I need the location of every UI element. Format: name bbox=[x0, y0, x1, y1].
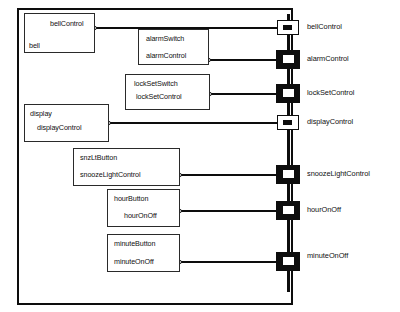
component-box-minute-button[interactable]: minuteButton minuteOnOff bbox=[107, 234, 180, 272]
component-class-label: bellControl bbox=[50, 19, 83, 28]
port-core-icon bbox=[283, 170, 294, 178]
component-box-bell[interactable]: bellControl bell bbox=[24, 13, 95, 53]
port-label-hour-on-off: hourOnOff bbox=[307, 205, 341, 214]
port-label-lockset-control: lockSetControl bbox=[307, 88, 354, 97]
component-class-label: hourButton bbox=[114, 194, 148, 203]
component-class-label: display bbox=[30, 109, 52, 118]
component-instance-label: alarmControl bbox=[146, 51, 186, 60]
port-alarm-control[interactable] bbox=[276, 50, 300, 69]
wire-hour-to-houronoff bbox=[181, 210, 290, 212]
component-class-label: snzLtButton bbox=[80, 153, 117, 162]
port-bell-control[interactable] bbox=[277, 20, 299, 35]
port-label-minute-on-off: minuteOnOff bbox=[307, 251, 348, 260]
component-instance-label: displayControl bbox=[37, 123, 81, 132]
port-core-icon bbox=[283, 206, 294, 214]
port-lockset-control[interactable] bbox=[276, 84, 300, 103]
component-instance-label: bell bbox=[29, 41, 40, 50]
component-box-display[interactable]: display displayControl bbox=[24, 104, 109, 142]
port-core-icon bbox=[283, 25, 292, 31]
diagram-canvas: bellControl bell alarmSwitch alarmContro… bbox=[0, 0, 400, 312]
port-display-control[interactable] bbox=[277, 115, 299, 130]
port-hour-on-off[interactable] bbox=[276, 201, 300, 220]
wire-snooze-to-snoozelightcontrol bbox=[181, 174, 290, 176]
port-minute-on-off[interactable] bbox=[276, 252, 300, 271]
component-class-label: alarmSwitch bbox=[146, 34, 184, 43]
component-box-snooze-light-button[interactable]: snzLtButton snoozeLightControl bbox=[73, 148, 180, 186]
component-instance-label: lockSetControl bbox=[136, 92, 182, 101]
component-box-lockset-switch[interactable]: lockSetSwitch lockSetControl bbox=[125, 74, 210, 110]
wire-minute-to-minuteonoff bbox=[181, 261, 290, 263]
component-class-label: lockSetSwitch bbox=[134, 79, 178, 88]
port-core-icon bbox=[283, 89, 294, 97]
component-instance-label: minuteOnOff bbox=[114, 257, 154, 266]
port-core-icon bbox=[283, 257, 294, 265]
port-label-alarm-control: alarmControl bbox=[307, 54, 349, 63]
port-label-display-control: displayControl bbox=[307, 117, 353, 126]
component-class-label: minuteButton bbox=[114, 239, 155, 248]
port-snooze-light-control[interactable] bbox=[276, 165, 300, 184]
component-box-alarm-switch[interactable]: alarmSwitch alarmControl bbox=[138, 29, 209, 65]
component-instance-label: hourOnOff bbox=[124, 211, 157, 220]
wire-display-to-displaycontrol bbox=[110, 122, 290, 124]
port-core-icon bbox=[283, 120, 292, 126]
port-core-icon bbox=[283, 55, 294, 63]
port-label-bell-control: bellControl bbox=[307, 22, 342, 31]
component-box-hour-button[interactable]: hourButton hourOnOff bbox=[107, 189, 180, 227]
component-instance-label: snoozeLightControl bbox=[80, 170, 141, 179]
port-label-snooze-light-control: snoozeLightControl bbox=[307, 169, 370, 178]
